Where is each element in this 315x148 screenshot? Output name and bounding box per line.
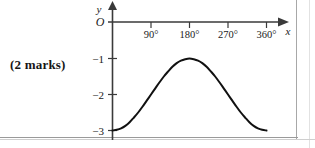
y-tick-label-minus3: −3	[92, 125, 104, 137]
origin-label: O	[96, 15, 105, 29]
y-axis-label: y	[96, 3, 102, 15]
y-tick-label-minus1: −1	[92, 53, 104, 65]
x-axis	[108, 18, 289, 27]
y-axis-arrowhead	[108, 1, 117, 10]
x-tick-label-360: 360°	[257, 29, 277, 40]
x-tick-label-90: 90°	[144, 29, 159, 40]
x-tick-label-180: 180°	[180, 29, 200, 40]
graph-plot: y x O 90° 180° 270° 360° −1 −2 −3	[0, 0, 315, 148]
x-tick-label-270: 270°	[218, 29, 238, 40]
cosine-curve	[113, 59, 267, 131]
x-axis-label: x	[285, 25, 291, 37]
figure-container: (2 marks) y x O 90° 180	[0, 0, 315, 148]
y-tick-label-minus2: −2	[92, 89, 104, 101]
x-axis-ticks	[151, 22, 267, 28]
